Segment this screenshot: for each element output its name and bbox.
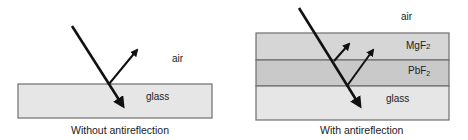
left-panel xyxy=(18,26,212,118)
glass-layer xyxy=(256,86,449,120)
mgf2-subscript: 2 xyxy=(426,42,430,51)
air-label: air xyxy=(172,54,183,64)
left-caption: Without antireflection xyxy=(71,125,169,136)
right-caption: With antireflection xyxy=(320,125,403,136)
pbf2-subscript: 2 xyxy=(426,70,430,77)
air-label: air xyxy=(401,12,412,22)
pbf2-base: PbF xyxy=(408,65,426,76)
glass-label: glass xyxy=(146,92,169,102)
pbf2-label: PbF2 xyxy=(408,66,430,77)
mgf2-label: MgF2 xyxy=(406,41,430,51)
right-panel xyxy=(256,8,449,120)
mgf2-base: MgF xyxy=(406,40,426,51)
glass-layer xyxy=(18,84,212,118)
reflected-ray xyxy=(109,50,137,84)
glass-label: glass xyxy=(386,94,409,104)
diagram-canvas xyxy=(0,0,468,140)
